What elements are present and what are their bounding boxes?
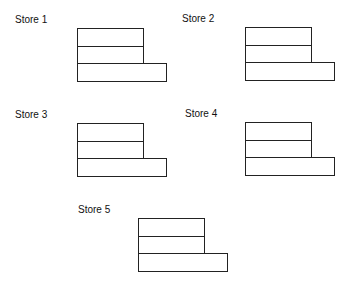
store-title: Store 2	[182, 13, 214, 24]
field-box-employees	[138, 218, 205, 237]
field-box-registers	[77, 141, 144, 160]
field-box-registers	[245, 140, 312, 159]
field-box-registers	[138, 236, 205, 255]
field-box-sales	[245, 157, 335, 176]
field-box-employees	[245, 27, 312, 46]
field-box-sales	[138, 253, 228, 272]
field-box-sales	[245, 62, 335, 81]
field-box-registers	[77, 46, 144, 65]
store-title: Store 3	[15, 109, 47, 120]
field-box-employees	[77, 123, 144, 142]
store-title: Store 5	[78, 204, 110, 215]
field-box-sales	[77, 63, 167, 82]
field-box-registers	[245, 45, 312, 64]
field-box-employees	[245, 122, 312, 141]
field-box-employees	[77, 28, 144, 47]
store-title: Store 4	[185, 108, 217, 119]
field-box-sales	[77, 158, 167, 177]
store-title: Store 1	[15, 14, 47, 25]
